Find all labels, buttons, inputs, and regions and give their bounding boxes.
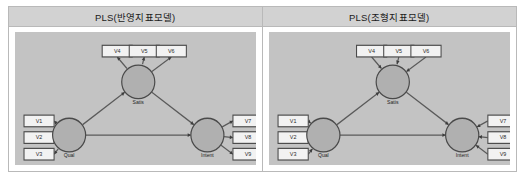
indicator-node: V2 (278, 132, 308, 144)
construct-ellipse (191, 118, 224, 152)
indicator-label: V4 (368, 48, 375, 54)
indicator-label: V8 (245, 134, 252, 140)
structural-path (83, 92, 125, 124)
diagram-canvas-formative: V1V2V3V4V5V6V7V8V9QualSatisIntent (269, 32, 511, 165)
node-layer: V1V2V3V4V5V6V7V8V9QualSatisIntent (24, 45, 255, 160)
indicator-label: V5 (395, 48, 402, 54)
measurement-path (406, 57, 425, 72)
indicator-label: V5 (141, 48, 148, 54)
indicator-node: V3 (278, 148, 308, 160)
measurement-path (152, 57, 171, 72)
indicator-node: V7 (233, 115, 256, 127)
indicator-node: V4 (102, 45, 132, 57)
indicator-label: V1 (36, 118, 43, 124)
construct-label: Satis (387, 99, 399, 105)
construct-label: Qual (317, 152, 328, 158)
indicator-label: V1 (289, 118, 296, 124)
construct-node: Intent (445, 118, 478, 158)
indicator-node: V5 (129, 45, 159, 57)
indicator-node: V8 (487, 132, 510, 144)
indicator-node: V3 (24, 148, 54, 160)
indicator-node: V4 (356, 45, 386, 57)
structural-path (152, 92, 194, 124)
construct-label: Qual (64, 152, 75, 158)
indicator-node: V6 (410, 45, 440, 57)
pls-model-comparison-figure: PLS(반영지표모델) PLS(조형지표모델) V1V2V3V4V5V6V7V8… (8, 6, 517, 172)
panel-reflective: V1V2V3V4V5V6V7V8V9QualSatisIntent (9, 27, 263, 171)
indicator-node: V5 (383, 45, 413, 57)
indicator-label: V6 (168, 48, 175, 54)
indicator-node: V2 (24, 132, 54, 144)
indicator-node: V8 (233, 132, 256, 144)
figure-body-row: V1V2V3V4V5V6V7V8V9QualSatisIntent V1V2V3… (9, 27, 516, 171)
indicator-label: V3 (289, 151, 296, 157)
indicator-label: V3 (36, 151, 43, 157)
indicator-node: V9 (487, 148, 510, 160)
construct-label: Satis (133, 99, 145, 105)
indicator-node: V1 (278, 115, 308, 127)
construct-ellipse (122, 65, 155, 99)
diagram-canvas-reflective: V1V2V3V4V5V6V7V8V9QualSatisIntent (15, 32, 256, 165)
construct-ellipse (445, 118, 478, 152)
panel-formative: V1V2V3V4V5V6V7V8V9QualSatisIntent (263, 27, 517, 171)
panel-title-formative: PLS(조형지표모델) (263, 7, 517, 26)
indicator-label: V7 (245, 118, 252, 124)
indicator-node: V7 (487, 115, 510, 127)
diagram-reflective: V1V2V3V4V5V6V7V8V9QualSatisIntent (15, 32, 256, 165)
indicator-label: V4 (114, 48, 121, 54)
indicator-node: V9 (233, 148, 256, 160)
indicator-label: V9 (245, 151, 252, 157)
indicator-label: V9 (499, 151, 506, 157)
figure-header-row: PLS(반영지표모델) PLS(조형지표모델) (9, 7, 516, 27)
construct-label: Intent (201, 152, 214, 158)
construct-ellipse (53, 118, 86, 152)
panel-title-reflective: PLS(반영지표모델) (9, 7, 263, 26)
construct-node: Satis (376, 65, 409, 105)
construct-ellipse (376, 65, 409, 99)
construct-ellipse (306, 118, 339, 152)
indicator-node: V6 (156, 45, 186, 57)
structural-path (336, 92, 378, 124)
indicator-label: V8 (499, 134, 506, 140)
indicator-label: V7 (499, 118, 506, 124)
construct-node: Qual (53, 118, 86, 158)
indicator-label: V2 (289, 134, 296, 140)
construct-node: Intent (191, 118, 224, 158)
construct-node: Satis (122, 65, 155, 105)
construct-label: Intent (455, 152, 468, 158)
indicator-label: V2 (36, 134, 43, 140)
diagram-formative: V1V2V3V4V5V6V7V8V9QualSatisIntent (269, 32, 511, 165)
indicator-node: V1 (24, 115, 54, 127)
indicator-label: V6 (422, 48, 429, 54)
structural-path (406, 92, 448, 124)
node-layer: V1V2V3V4V5V6V7V8V9QualSatisIntent (278, 45, 510, 160)
